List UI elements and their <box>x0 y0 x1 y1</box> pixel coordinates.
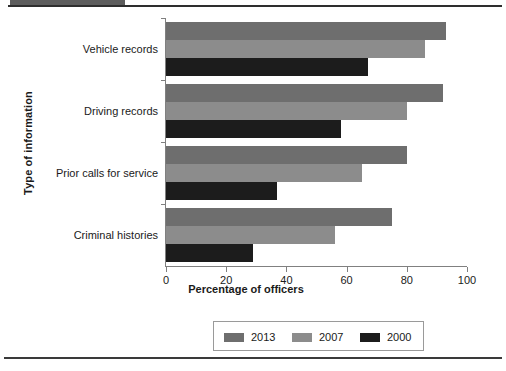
legend: 201320072000 <box>213 321 424 351</box>
x-axis-tick-label: 60 <box>327 274 367 286</box>
page-divider-bottom <box>4 357 502 359</box>
x-axis-tick-label: 80 <box>387 274 427 286</box>
legend-label: 2007 <box>319 332 343 343</box>
x-axis-title: Percentage of officers <box>166 283 326 295</box>
y-axis-tick <box>161 142 166 143</box>
category-label: Vehicle records <box>36 43 158 55</box>
legend-label: 2013 <box>251 332 275 343</box>
legend-swatch-icon <box>360 333 380 342</box>
bar <box>166 182 277 200</box>
category-label: Prior calls for service <box>36 167 158 179</box>
legend-item[interactable]: 2013 <box>224 330 275 344</box>
bar <box>166 40 425 58</box>
x-axis-tick <box>166 267 167 272</box>
legend-swatch-icon <box>292 333 312 342</box>
x-axis-tick <box>467 267 468 272</box>
x-axis-tick <box>407 267 408 272</box>
bar <box>166 58 368 76</box>
legend-swatch-icon <box>224 333 244 342</box>
bar <box>166 244 253 262</box>
plot-area: 020406080100 <box>166 18 467 266</box>
category-label: Driving records <box>36 105 158 117</box>
y-axis-title: Type of information <box>22 68 34 218</box>
bar <box>166 226 335 244</box>
bar-chart: Type of information Vehicle recordsDrivi… <box>0 7 506 357</box>
legend-item[interactable]: 2007 <box>292 330 343 344</box>
bar <box>166 146 407 164</box>
bar <box>166 164 362 182</box>
category-label: Criminal histories <box>36 229 158 241</box>
bar <box>166 84 443 102</box>
x-axis-tick <box>347 267 348 272</box>
legend-item[interactable]: 2000 <box>360 330 411 344</box>
legend-label: 2000 <box>387 332 411 343</box>
y-axis-tick <box>161 18 166 19</box>
y-axis-tick <box>161 204 166 205</box>
x-axis-tick <box>226 267 227 272</box>
y-axis-tick <box>161 80 166 81</box>
bar <box>166 208 392 226</box>
x-axis-tick <box>286 267 287 272</box>
x-axis-line <box>165 266 467 267</box>
bar <box>166 120 341 138</box>
bar <box>166 22 446 40</box>
y-axis-tick-labels: Vehicle recordsDriving recordsPrior call… <box>40 18 162 266</box>
bar <box>166 102 407 120</box>
x-axis-tick-label: 100 <box>447 274 487 286</box>
